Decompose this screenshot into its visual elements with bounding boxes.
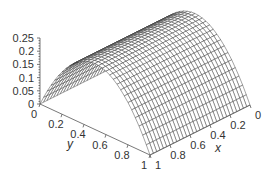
x-tick [170,145,171,148]
x-tick-label: 0.8 [170,149,185,161]
x-tick-label: 1 [155,159,161,171]
y-axis-title: y [66,137,74,151]
y-tick-label: 0.6 [92,139,107,151]
y-tick-label: 0.8 [114,149,129,161]
surface-plot: 00.050.10.150.20.2500.20.40.60.8100.20.4… [0,0,272,177]
y-tick-label: 1 [141,159,147,171]
y-tick-label: 0 [31,108,37,120]
y-tick [127,145,128,148]
z-tick-label: 0.15 [13,58,34,70]
x-tick-label: 0.6 [190,139,205,151]
y-tick [61,114,62,117]
x-tick [190,135,191,138]
x-tick-label: 0.4 [210,129,225,141]
y-tick [83,124,84,127]
x-tick [150,155,151,158]
x-axis-title: x [214,141,222,155]
x-tick-label: 0.2 [230,119,245,131]
z-tick-label: 0.25 [13,32,34,44]
z-tick-label: 0.05 [13,85,34,97]
x-tick-label: 0 [255,109,261,121]
x-tick [250,105,251,108]
y-tick [105,135,106,138]
z-tick-label: 0.1 [19,72,34,84]
z-tick-label: 0.2 [19,45,34,57]
y-tick-label: 0.2 [48,118,63,130]
x-tick [230,115,231,118]
x-tick [210,125,211,128]
y-tick [39,104,40,107]
